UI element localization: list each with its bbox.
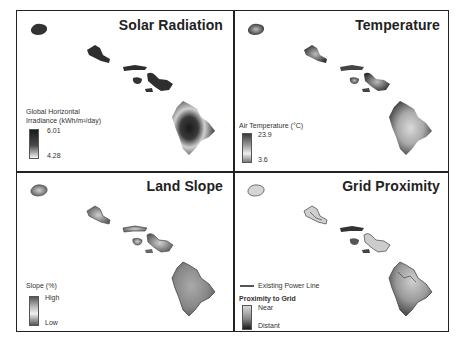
panel-temperature: Temperature Air Temperature (°C) 23.9 3.… [234,11,450,171]
panel-title: Land Slope [147,178,223,194]
legend-title-line1: Slope (%) [26,281,57,290]
legend-color-ramp [29,129,39,159]
legend-min-label: Low [45,319,58,326]
panel-title: Solar Radiation [119,17,223,33]
hawaii-map-temperature [234,11,450,171]
panel-solar-radiation: Solar Radiation Global Horizontal Irradi… [17,11,233,171]
panel-grid-proximity: Grid Proximity Existing Power Line Proxi… [234,172,450,332]
figure-frame: Solar Radiation Global Horizontal Irradi… [16,10,449,332]
legend-max-label: 6.01 [47,127,61,134]
horizontal-divider [17,171,448,173]
legend-color-ramp [242,133,252,163]
hawaii-map-slope [17,172,233,332]
legend-power-line-label: Existing Power Line [258,281,319,290]
legend-min-label: 3.6 [258,156,268,163]
power-line-legend-symbol [240,285,254,287]
panel-title: Grid Proximity [342,178,440,194]
panel-title: Temperature [355,17,440,33]
legend-title-line1: Proximity to Grid [239,294,296,303]
legend-color-ramp [29,296,39,326]
hawaii-map-solar [17,11,233,171]
legend-title-line2: Irradiance (kWh/m²/day) [26,116,101,125]
legend-title-line1: Global Horizontal [26,107,80,116]
legend-color-ramp [242,305,252,330]
legend-title-line1: Air Temperature (°C) [239,121,303,130]
legend-max-label: 23.9 [258,131,272,138]
legend-max-label: Near [258,304,273,311]
legend-max-label: High [45,294,59,301]
legend-min-label: Distant [258,322,280,329]
legend-min-label: 4.28 [47,152,61,159]
panel-land-slope: Land Slope Slope (%) High Low [17,172,233,332]
